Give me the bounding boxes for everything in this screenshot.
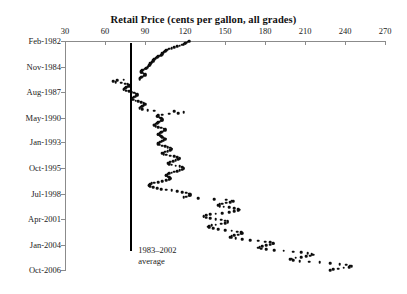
data-point: [166, 150, 169, 153]
data-point: [237, 233, 240, 236]
data-point: [265, 244, 268, 247]
data-point: [185, 195, 188, 198]
data-point: [173, 46, 176, 49]
data-point: [153, 109, 156, 112]
data-point: [217, 228, 220, 231]
x-tick-label: 30: [61, 26, 70, 36]
data-point: [229, 201, 232, 204]
average-annotation-label: 1983–2002 average: [138, 245, 176, 268]
data-point: [305, 255, 308, 258]
data-point: [300, 256, 303, 259]
data-point: [209, 217, 212, 220]
data-point: [265, 248, 268, 251]
data-point: [165, 154, 168, 157]
data-point: [181, 168, 184, 171]
data-point: [233, 210, 236, 213]
data-point: [214, 223, 217, 226]
data-point: [161, 113, 164, 116]
chart-title: Retail Price (cents per gallon, all grad…: [0, 14, 407, 25]
data-point: [170, 47, 173, 50]
data-point: [165, 179, 168, 182]
y-tick-label: Jan-1993: [30, 137, 61, 147]
data-point: [298, 260, 301, 263]
y-tick-label: Oct-1995: [29, 163, 61, 173]
data-point: [350, 265, 353, 268]
x-tick-label: 150: [219, 26, 232, 36]
x-tick: [385, 41, 386, 45]
data-point: [241, 238, 244, 241]
data-point: [214, 212, 217, 215]
data-point: [257, 240, 260, 243]
data-point: [272, 243, 275, 246]
data-point: [170, 189, 173, 192]
data-point: [169, 154, 172, 157]
x-tick-label: 210: [299, 26, 312, 36]
data-point: [176, 45, 179, 48]
data-point: [141, 108, 144, 111]
data-point: [208, 226, 211, 229]
data-point: [152, 186, 155, 189]
data-point: [153, 181, 156, 184]
data-point: [234, 237, 237, 240]
y-tick-label: Feb-1982: [28, 36, 61, 46]
data-point: [122, 78, 125, 81]
data-point: [218, 205, 221, 208]
x-tick-label: 240: [339, 26, 352, 36]
data-point: [197, 197, 200, 200]
data-point: [173, 171, 176, 174]
data-point: [178, 169, 181, 172]
data-point: [156, 187, 159, 190]
data-point: [178, 44, 181, 47]
data-point: [181, 44, 184, 47]
data-point: [212, 227, 215, 230]
data-point: [172, 160, 175, 163]
data-point: [182, 196, 185, 199]
data-point: [312, 253, 315, 256]
data-point: [294, 257, 297, 260]
x-tick-label: 120: [179, 26, 192, 36]
data-point: [209, 213, 212, 216]
data-point: [188, 195, 191, 198]
data-point: [260, 247, 263, 250]
data-point: [114, 81, 117, 84]
data-point: [232, 200, 235, 203]
data-point: [249, 239, 252, 242]
data-point: [165, 188, 168, 191]
x-tick-label: 90: [141, 26, 150, 36]
y-tick-label: Nov-1984: [27, 62, 61, 72]
data-point: [329, 269, 332, 272]
data-point: [160, 188, 163, 191]
data-point: [308, 260, 311, 263]
data-point: [224, 229, 227, 232]
data-point: [273, 249, 276, 252]
data-point: [205, 216, 208, 219]
data-point: [282, 250, 285, 253]
y-tick-label: Apr-2001: [28, 214, 61, 224]
data-point: [269, 243, 272, 246]
plot-area: [65, 41, 385, 271]
data-point: [174, 159, 177, 162]
data-point: [226, 221, 229, 224]
data-point: [169, 149, 172, 152]
x-tick-label: 60: [101, 26, 110, 36]
y-tick-label: Oct-2006: [29, 265, 61, 275]
y-tick-label: Aug-1987: [27, 87, 61, 97]
data-point: [230, 236, 233, 239]
data-point: [214, 218, 217, 221]
data-point: [230, 229, 233, 232]
data-point: [213, 198, 216, 201]
data-point: [168, 178, 171, 181]
data-point: [182, 111, 185, 114]
data-point: [157, 181, 160, 184]
data-point: [240, 233, 243, 236]
x-tick-label: 270: [379, 26, 392, 36]
data-point: [177, 158, 180, 161]
data-point: [168, 112, 171, 115]
data-point: [173, 110, 176, 113]
y-tick-label: Jul-1998: [31, 189, 61, 199]
data-point: [332, 268, 335, 271]
data-point: [224, 222, 227, 225]
gasoline-price-scatter-figure: Retail Price (cents per gallon, all grad…: [0, 0, 407, 294]
data-point: [222, 205, 225, 208]
data-point: [138, 78, 141, 81]
